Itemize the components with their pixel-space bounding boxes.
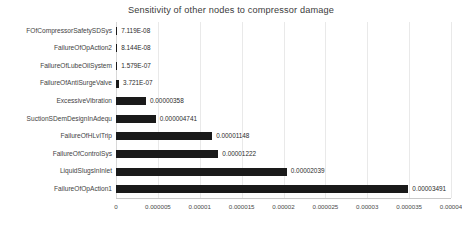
x-tick-label: 0.000005	[145, 203, 171, 210]
category-label: FailureOfHLvlTrip	[0, 133, 112, 140]
bar[interactable]	[116, 97, 146, 105]
x-tick-label: 0.000015	[229, 203, 255, 210]
bar-value-label: 7.119E-08	[121, 28, 150, 34]
bar-container: 0.00003491	[116, 180, 462, 198]
x-tick-label: 0.00004	[440, 203, 462, 210]
category-label: LiquidSlugsInInlet	[0, 168, 112, 175]
bar[interactable]	[116, 132, 212, 140]
bar-value-label: 0.00002039	[291, 168, 325, 174]
bar-value-label: 0.00003491	[412, 186, 446, 192]
bar-value-label: 3.721E-07	[123, 80, 153, 86]
category-label: FailureOfControlSys	[0, 151, 112, 158]
bar-container: 0.00000358	[116, 92, 462, 110]
bar[interactable]	[116, 62, 117, 70]
category-label: FailureOfOpAction1	[0, 186, 112, 193]
bar-value-label: 0.000004741	[160, 116, 197, 122]
bar-container: 1.579E-07	[116, 57, 462, 75]
x-tick-label: 0.00003	[356, 203, 378, 210]
bar-container: 0.00002039	[116, 163, 462, 181]
bar-container: 3.721E-07	[116, 75, 462, 93]
bar-row: SuctionSDemDesignInAdequ0.000004741	[0, 110, 462, 128]
bar-container: 7.119E-08	[116, 22, 462, 40]
x-axis-line	[116, 198, 451, 199]
bar-value-label: 0.00001148	[216, 133, 249, 139]
bar-rows: FOfCompressorSafetySDSys7.119E-08Failure…	[0, 22, 462, 198]
bar-container: 0.00001222	[116, 145, 462, 163]
bar-row: FOfCompressorSafetySDSys7.119E-08	[0, 22, 462, 40]
sensitivity-bar-chart: Sensitivity of other nodes to compressor…	[0, 0, 462, 226]
x-tick-label: 0.000035	[396, 203, 422, 210]
category-label: FailureOfOpAction2	[0, 45, 112, 52]
chart-title: Sensitivity of other nodes to compressor…	[0, 5, 462, 15]
bar-row: ExcessiveVibration0.00000358	[0, 92, 462, 110]
category-label: SuctionSDemDesignInAdequ	[0, 116, 112, 123]
category-label: ExcessiveVibration	[0, 98, 112, 105]
bar-container: 0.00001148	[116, 128, 462, 146]
bar-row: FailureOfControlSys0.00001222	[0, 145, 462, 163]
bar-row: LiquidSlugsInInlet0.00002039	[0, 163, 462, 181]
x-tick-label: 0	[114, 203, 117, 210]
bar[interactable]	[116, 80, 119, 88]
bar[interactable]	[116, 150, 218, 158]
category-label: FailureOfAntiSurgeValve	[0, 80, 112, 87]
bar-row: FailureOfLubeOilSystem1.579E-07	[0, 57, 462, 75]
bar-value-label: 0.00000358	[150, 98, 184, 104]
bar-value-label: 8.144E-08	[121, 45, 151, 51]
bar-container: 8.144E-08	[116, 40, 462, 58]
bar-row: FailureOfHLvlTrip0.00001148	[0, 128, 462, 146]
bar-row: FailureOfAntiSurgeValve3.721E-07	[0, 75, 462, 93]
bar-value-label: 0.00001222	[222, 151, 256, 157]
bar-container: 0.000004741	[116, 110, 462, 128]
x-tick-label: 0.000025	[312, 203, 338, 210]
x-tick-label: 0.00001	[189, 203, 211, 210]
x-tick-label: 0.00002	[272, 203, 294, 210]
category-label: FailureOfLubeOilSystem	[0, 63, 112, 70]
bar[interactable]	[116, 168, 287, 176]
bar[interactable]	[116, 44, 117, 52]
bar-row: FailureOfOpAction28.144E-08	[0, 40, 462, 58]
bar[interactable]	[116, 27, 117, 35]
x-axis-tick-labels: 00.0000050.000010.0000150.000020.0000250…	[116, 201, 451, 215]
category-label: FOfCompressorSafetySDSys	[0, 28, 112, 35]
bar-row: FailureOfOpAction10.00003491	[0, 180, 462, 198]
bar[interactable]	[116, 185, 408, 193]
bar[interactable]	[116, 115, 156, 123]
bar-value-label: 1.579E-07	[121, 63, 151, 69]
